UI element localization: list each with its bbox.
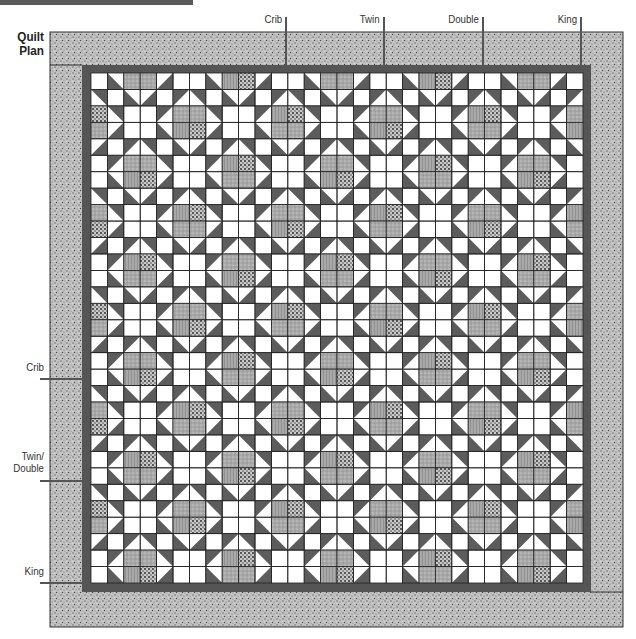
marker-label-top-crib: Crib xyxy=(264,13,282,25)
marker-label-top-king: King xyxy=(558,13,577,25)
quilt xyxy=(50,32,623,627)
marker-label-top-double: Double xyxy=(448,13,479,25)
marker-label-left-crib: Crib xyxy=(9,361,44,373)
marker-label-top-twin: Twin xyxy=(360,13,380,25)
marker-label-left-twin-double: Twin/ Double xyxy=(9,450,44,474)
marker-label-double: Double xyxy=(9,462,44,474)
marker-label-twin: Twin/ xyxy=(9,450,44,462)
marker-label-left-king: King xyxy=(9,565,44,577)
quilt-plan-diagram xyxy=(0,0,636,639)
